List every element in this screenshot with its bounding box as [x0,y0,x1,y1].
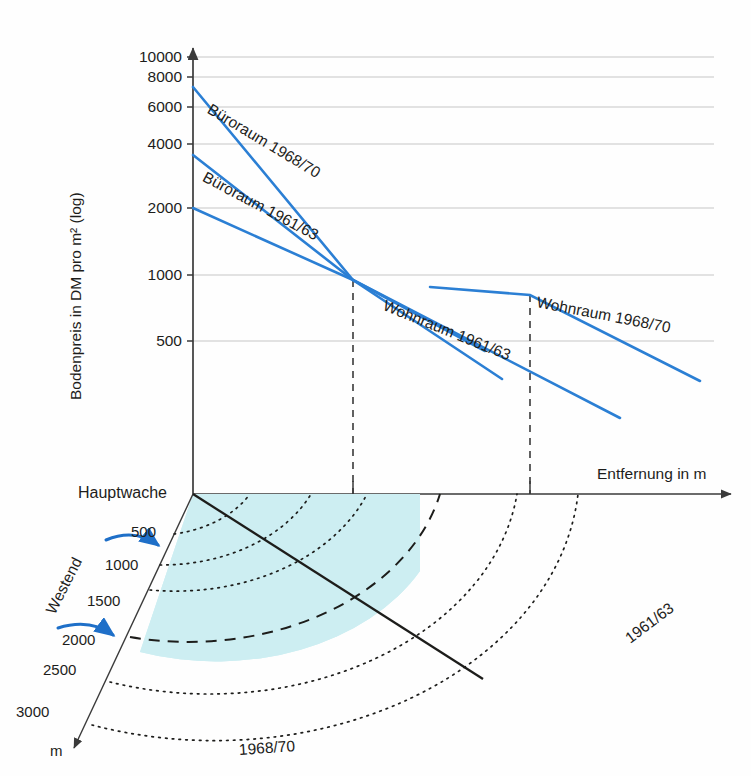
polar-radial-label-1500: 1500 [87,593,120,608]
y-axis-title: Bodenpreis in DM pro m² (log) [68,192,84,400]
y-tick-label-4000: 4000 [88,136,182,152]
polar-radial-label-3000: 3000 [16,704,49,719]
y-tick-label-6000: 6000 [88,99,182,115]
y-tick-label-1000: 1000 [88,267,182,283]
polar-unit-label: m [50,743,63,758]
chart-droplines [353,280,530,494]
chart-gridlines [193,57,714,341]
y-tick-label-2000: 2000 [88,200,182,216]
y-tick-label-500: 500 [88,333,182,349]
y-tick-label-10000: 10000 [88,49,182,65]
polar-radial-label-500: 500 [131,524,156,539]
figure-canvas [0,0,751,776]
x-axis [193,481,731,494]
polar-radial-label-2000: 2000 [62,632,95,647]
y-axis [187,48,193,494]
x-axis-title: Entfernung in m [597,466,706,482]
polar-radial-label-1000: 1000 [105,557,138,572]
arc-label-1968-70: 1968/70 [238,738,295,757]
polar-radial-label-2500: 2500 [43,662,76,677]
y-tick-label-8000: 8000 [88,69,182,85]
figure-root: 10000 8000 6000 4000 2000 1000 500 Boden… [0,0,751,776]
polar-origin-label: Hauptwache [78,485,167,501]
